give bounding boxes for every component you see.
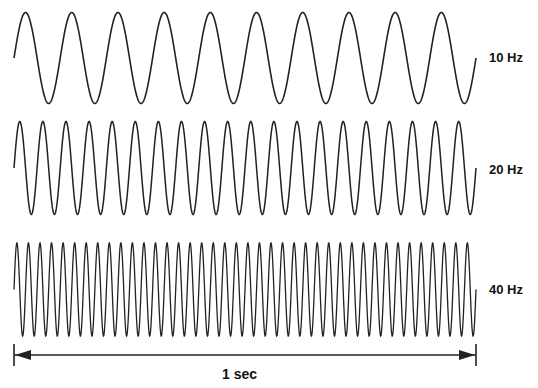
arrow-right-icon [459, 350, 475, 360]
time-axis-arrow [14, 344, 476, 366]
wave-label-40hz: 40 Hz [489, 282, 523, 297]
wave-40hz [14, 243, 476, 336]
wave-label-20hz: 20 Hz [489, 162, 523, 177]
wave-20hz [14, 122, 476, 215]
arrow-left-icon [15, 350, 31, 360]
wave-label-10hz: 10 Hz [489, 50, 523, 65]
time-axis-label: 1 sec [222, 366, 257, 382]
sine-waves-diagram [0, 0, 538, 388]
wave-10hz [14, 13, 476, 104]
